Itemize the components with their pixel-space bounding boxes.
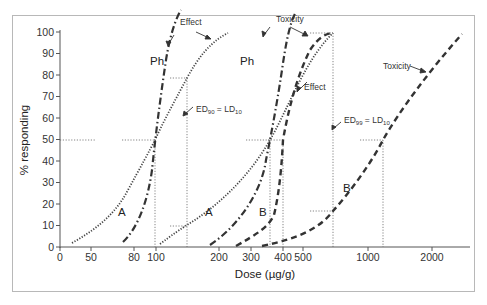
y-tick-label: 40	[42, 155, 54, 167]
x-tick-label: 500	[294, 251, 312, 263]
curve-b-right-dashed	[262, 34, 462, 246]
x-tick-label: 300	[242, 251, 260, 263]
label-ed90-ld10: ED90 = LD10	[196, 104, 242, 115]
label-b-mid: B	[259, 206, 267, 218]
label-ed99-ld10: ED99 = LD10	[344, 115, 390, 126]
label-effect-mid: Effect	[304, 82, 326, 92]
label-toxicity-right: Toxicity	[383, 61, 412, 71]
label-effect-left: Effect	[180, 17, 202, 27]
x-tick-label: 80	[128, 251, 140, 263]
y-ticks: 1009080706050403020100	[36, 26, 60, 253]
x-tick-label: 0	[57, 251, 63, 263]
x-tick-label: 1000	[356, 251, 380, 263]
x-tick-label: 200	[210, 251, 228, 263]
x-tick-label: 400	[274, 251, 292, 263]
y-tick-label: 100	[36, 26, 54, 38]
label-ph-left: Ph	[150, 55, 164, 67]
label-a-mid: A	[205, 206, 213, 218]
x-tick-label: 100	[147, 251, 165, 263]
label-b-right: B	[343, 182, 351, 194]
label-a-left: A	[118, 206, 126, 218]
x-axis-title: Dose (µg/g)	[235, 268, 295, 280]
curve-ph-left-dashdot	[123, 10, 181, 242]
y-tick-label: 90	[42, 47, 54, 59]
y-tick-label: 30	[42, 176, 54, 188]
x-tick-label: 50	[85, 251, 97, 263]
label-toxicity-mid: Toxicity	[276, 14, 305, 24]
dose-response-chart: 1009080706050403020100 05080100200300400…	[0, 0, 487, 305]
y-tick-label: 70	[42, 90, 54, 102]
y-axis-title: % responding	[18, 105, 30, 175]
label-ph-mid: Ph	[240, 55, 254, 67]
y-tick-label: 50	[42, 133, 54, 145]
x-ticks: 0508010020030040050010002000	[57, 247, 444, 263]
y-tick-label: 0	[48, 241, 54, 253]
reference-lines	[60, 33, 383, 247]
y-tick-label: 80	[42, 69, 54, 81]
y-tick-label: 10	[42, 219, 54, 231]
y-tick-label: 60	[42, 112, 54, 124]
y-tick-label: 20	[42, 198, 54, 210]
annotation-arrows	[166, 27, 426, 130]
x-tick-label: 2000	[420, 251, 444, 263]
